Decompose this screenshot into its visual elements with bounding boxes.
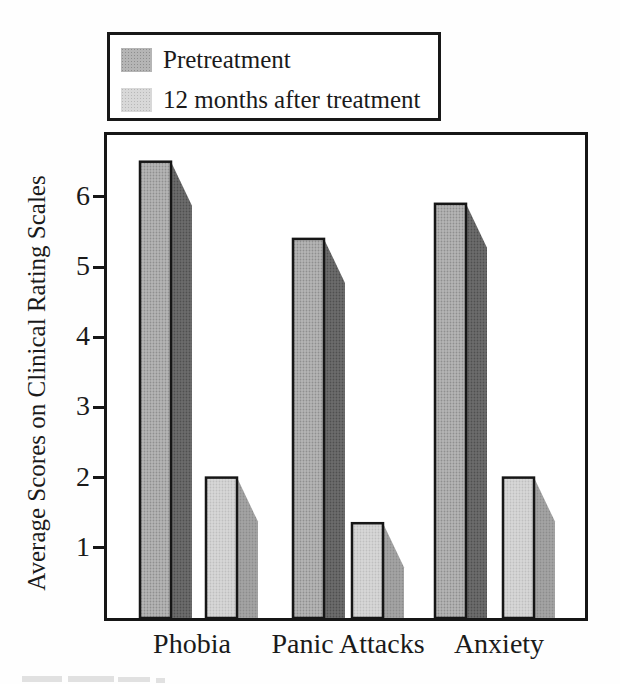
bar-12-months-after-treatment-anxiety — [503, 478, 534, 618]
bar-12-months-after-treatment-phobia-shadow — [237, 478, 258, 618]
legend-label-after-treatment: 12 months after treatment — [163, 85, 421, 114]
legend-label-pretreatment: Pretreatment — [163, 45, 291, 74]
y-tick-label-1: 1 — [34, 531, 90, 563]
bar-pretreatment-phobia — [140, 162, 171, 618]
legend-swatch-pretreatment — [121, 48, 152, 72]
bar-12-months-after-treatment-anxiety-shadow — [534, 478, 555, 618]
y-tick-3 — [93, 406, 105, 409]
x-category-label-anxiety: Anxiety — [399, 628, 599, 660]
bar-12-months-after-treatment-phobia — [206, 478, 237, 618]
cropped-caption-fragment — [22, 676, 62, 682]
bar-pretreatment-anxiety — [435, 204, 466, 618]
y-tick-5 — [93, 266, 105, 269]
cropped-caption-fragment — [68, 676, 114, 682]
y-tick-1 — [93, 546, 105, 549]
legend-swatch-after-treatment — [121, 88, 152, 112]
cropped-caption-fragment — [156, 678, 165, 683]
bar-pretreatment-phobia-shadow — [171, 162, 192, 618]
y-tick-6 — [93, 195, 105, 198]
y-tick-4 — [93, 336, 105, 339]
bar-pretreatment-panic-attacks-shadow — [324, 239, 345, 618]
bar-pretreatment-panic-attacks — [293, 239, 324, 618]
cropped-caption-fragment — [118, 677, 150, 682]
chart-legend: Pretreatment 12 months after treatment — [107, 32, 441, 121]
y-tick-label-6: 6 — [34, 180, 90, 212]
y-tick-label-5: 5 — [34, 250, 90, 282]
bars-canvas — [107, 135, 585, 618]
y-tick-label-2: 2 — [34, 461, 90, 493]
y-tick-label-3: 3 — [34, 390, 90, 422]
bar-pretreatment-anxiety-shadow — [466, 204, 487, 618]
y-tick-2 — [93, 476, 105, 479]
plot-area — [104, 132, 588, 621]
y-tick-label-4: 4 — [34, 320, 90, 352]
bar-12-months-after-treatment-panic-attacks — [352, 523, 383, 618]
bar-12-months-after-treatment-panic-attacks-shadow — [383, 523, 404, 618]
